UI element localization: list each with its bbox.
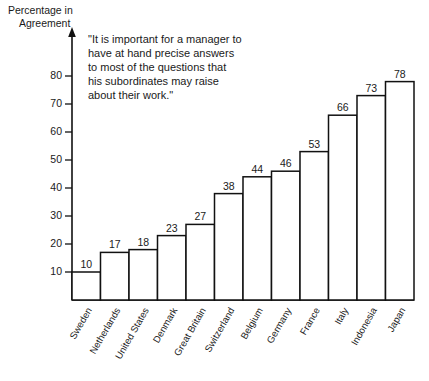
y-tick-label: 60 xyxy=(50,125,62,137)
category-label: Germany xyxy=(264,305,293,345)
y-axis-title: Percentage in Agreement xyxy=(8,4,73,29)
y-axis-title-line-2: Agreement xyxy=(19,17,70,29)
bar xyxy=(101,252,130,300)
chart-canvas: Percentage in Agreement "It is important… xyxy=(0,0,429,381)
y-tick-label: 80 xyxy=(50,69,62,81)
bar-value-label: 78 xyxy=(394,68,406,80)
y-tick-label: 70 xyxy=(50,97,62,109)
y-axis-title-line-1: Percentage in xyxy=(8,4,73,16)
y-axis-ticks: 1020304050607080 xyxy=(50,69,72,277)
bar xyxy=(329,115,358,300)
y-tick-label: 10 xyxy=(50,265,62,277)
bar-value-label: 66 xyxy=(337,101,349,113)
bar-value-label: 17 xyxy=(109,238,121,250)
category-label: Denmark xyxy=(150,305,179,344)
bar-chart-figure: Percentage in Agreement "It is important… xyxy=(0,0,429,381)
category-label: Belgium xyxy=(238,306,265,342)
quote-line-5: about their work." xyxy=(88,89,173,101)
bar-value-label: 46 xyxy=(280,157,292,169)
y-tick-label: 40 xyxy=(50,181,62,193)
bar xyxy=(72,272,101,300)
bar-value-label: 27 xyxy=(194,210,206,222)
bar-value-label: 23 xyxy=(166,222,178,234)
bars-container xyxy=(72,82,414,300)
category-labels: SwedenNetherlandsUnited StatesDenmarkGre… xyxy=(67,305,407,361)
category-label: France xyxy=(298,306,322,337)
quote-annotation: "It is important for a manager to have a… xyxy=(88,33,242,101)
bar xyxy=(186,224,215,300)
bar xyxy=(272,171,301,300)
bar xyxy=(357,96,386,300)
quote-line-3: to most of the questions that xyxy=(88,61,226,73)
bar-value-label: 44 xyxy=(251,163,263,175)
bar xyxy=(243,177,272,300)
bar-value-label: 73 xyxy=(365,82,377,94)
bar xyxy=(158,236,187,300)
bar xyxy=(129,250,158,300)
y-tick-label: 20 xyxy=(50,237,62,249)
category-label: Indonesia xyxy=(349,305,380,347)
quote-line-1: "It is important for a manager to xyxy=(88,33,242,45)
quote-line-2: have at hand precise answers xyxy=(88,47,235,59)
y-tick-label: 50 xyxy=(50,153,62,165)
bar xyxy=(386,82,415,300)
quote-line-4: his subordinates may raise xyxy=(88,75,219,87)
y-tick-label: 30 xyxy=(50,209,62,221)
bar-value-label: 53 xyxy=(308,138,320,150)
bar-value-label: 38 xyxy=(223,180,235,192)
bar xyxy=(300,152,329,300)
category-label: Japan xyxy=(385,306,408,334)
bar-value-label: 18 xyxy=(137,236,149,248)
category-label: Sweden xyxy=(67,306,94,342)
category-label: Switzerland xyxy=(202,306,236,354)
bar-value-label: 10 xyxy=(80,258,92,270)
bar xyxy=(215,194,244,300)
category-label: Italy xyxy=(332,305,350,326)
